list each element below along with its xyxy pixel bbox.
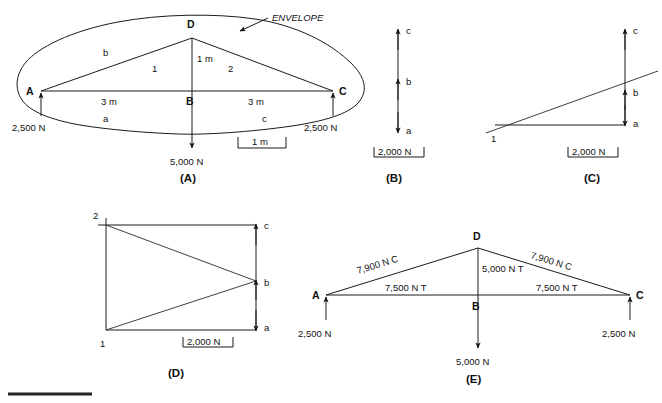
envelope-label: ENVELOPE [272,12,324,23]
reaction-left-label-e: 2,500 N [298,328,331,339]
member-force-top-right: 7,900 N C [529,249,573,272]
applied-load-label: 5,000 N [170,156,203,167]
dim-right-span: 3 m [248,96,264,107]
panel-d: c b a 2 1 2,000 N (D) [93,210,270,379]
panel-a: ENVELOPE A B C D b 1 2 a c 3 m 3 m 1 m 2… [12,12,364,184]
point-label-2-d: 2 [93,210,98,221]
space-label-2: 2 [228,63,233,74]
point-label-b-c: b [633,87,638,98]
envelope-leader [240,18,268,31]
node-label-c: C [339,85,347,97]
dim-height: 1 m [197,53,213,64]
member-ad [41,38,192,91]
node-label-d-e: D [473,230,481,242]
scale-bar-c: 2,000 N [568,146,618,157]
figure-root: ENVELOPE A B C D b 1 2 a c 3 m 3 m 1 m 2… [0,0,662,403]
reaction-left-label: 2,500 N [12,122,45,133]
point-label-c-d: c [264,220,269,231]
point-label-b-b: b [406,76,411,87]
member-dc [192,38,333,91]
point-label-1-c: 1 [491,133,496,144]
node-label-b-e: B [472,300,480,312]
scale-bar-b-label: 2,000 N [378,146,411,157]
scale-bar-a-label: 1 m [252,136,268,147]
node-label-a: A [26,85,34,97]
space-label-c: c [262,113,267,124]
point-label-b-d: b [264,277,269,288]
member-force-bottom-right: 7,500 N T [536,282,578,293]
point-label-a-c: a [633,118,639,129]
member-force-bottom-left: 7,500 N T [385,282,427,293]
panel-b-caption: (B) [386,172,402,184]
panel-a-caption: (A) [180,172,196,184]
node-label-d: D [187,18,195,30]
node-label-b: B [186,95,194,107]
scale-bar-c-label: 2,000 N [572,146,605,157]
envelope-outline [17,15,364,134]
scale-bar-a: 1 m [238,136,286,148]
panel-e-caption: (E) [466,373,482,385]
scale-bar-d: 2,000 N [183,336,233,347]
diagonal-1b-d [106,281,256,330]
diagonal-2b-d [106,225,256,281]
node-label-c-e: C [636,289,644,301]
panel-e: A B C D 7,900 N C 7,900 N C 7,500 N T 7,… [298,230,644,385]
scale-bar-b: 2,000 N [374,146,424,157]
scale-bar-d-label: 2,000 N [187,336,220,347]
applied-load-label-e: 5,000 N [456,356,489,367]
member-force-vertical: 5,000 N T [482,263,524,274]
dim-left-span: 3 m [101,96,117,107]
reaction-right-label-e: 2,500 N [602,328,635,339]
point-label-a-d: a [264,322,270,333]
space-label-b: b [103,47,108,58]
point-label-c-b: c [406,25,411,36]
space-label-1: 1 [152,63,157,74]
member-force-top-left: 7,900 N C [355,253,399,276]
reaction-right-label: 2,500 N [304,122,337,133]
figure-svg: ENVELOPE A B C D b 1 2 a c 3 m 3 m 1 m 2… [0,0,662,403]
panel-d-caption: (D) [168,367,184,379]
point-label-c-c: c [633,25,638,36]
point-label-a-b: a [406,125,412,136]
space-label-a: a [103,113,109,124]
panel-b: c b a 2,000 N (B) [374,25,424,184]
node-label-a-e: A [312,289,320,301]
point-label-1-d: 1 [100,338,105,349]
panel-c: c b a 1 2,000 N (C) [486,25,658,184]
panel-c-caption: (C) [584,172,600,184]
